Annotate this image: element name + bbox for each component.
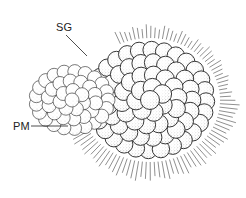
sg-leader-line bbox=[66, 35, 87, 56]
label-pm: PM bbox=[13, 121, 30, 132]
label-sg: SG bbox=[56, 22, 72, 33]
cluster-illustration bbox=[0, 0, 246, 198]
